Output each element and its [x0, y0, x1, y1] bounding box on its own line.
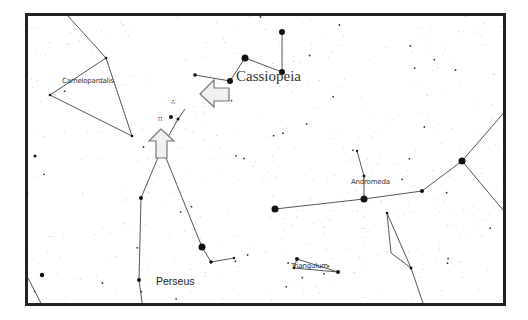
star — [131, 135, 134, 138]
constellation-line-lacerta-corner — [28, 278, 44, 303]
sky-map — [28, 16, 503, 303]
faint-stars — [28, 16, 501, 302]
star — [105, 57, 108, 60]
star — [386, 212, 389, 215]
star — [410, 267, 413, 270]
constellation-line-camelopardalis — [68, 16, 132, 136]
constellation-lines — [28, 16, 503, 303]
label-triangulum: Triangulum — [291, 262, 328, 270]
star — [34, 155, 37, 158]
star — [459, 158, 466, 165]
star — [361, 196, 368, 203]
star — [272, 206, 279, 213]
star — [336, 270, 340, 274]
label-camelopardalis: Camelopardalis — [62, 77, 114, 85]
star — [193, 73, 197, 77]
label-andromeda: Andromeda — [351, 178, 390, 186]
star — [279, 29, 285, 35]
star — [177, 118, 180, 121]
double-cluster-object-b: ∷ — [158, 115, 162, 122]
label-perseus: Perseus — [156, 275, 195, 287]
star — [420, 189, 424, 193]
star — [169, 115, 173, 119]
arrow-left-icon — [200, 80, 229, 107]
constellation-line-perseus — [162, 148, 234, 262]
star — [40, 273, 44, 277]
star — [137, 278, 141, 282]
star — [233, 257, 235, 259]
star — [199, 244, 206, 251]
star — [295, 257, 299, 261]
star — [227, 78, 233, 84]
constellation-line-andromeda — [462, 161, 503, 216]
constellation-line-camelopardalis — [50, 58, 132, 136]
double-cluster-object-a: ∴ — [171, 98, 175, 105]
star — [209, 260, 213, 264]
star — [139, 196, 143, 200]
constellation-line-andromeda — [275, 108, 503, 209]
constellation-line-pisces — [387, 213, 411, 268]
star — [49, 94, 52, 97]
star — [356, 150, 358, 152]
label-cassiopeia: Cassiopeia — [236, 68, 301, 85]
star-chart: Camelopardalis Cassiopeia Andromeda Pers… — [25, 13, 506, 306]
star — [242, 55, 249, 62]
